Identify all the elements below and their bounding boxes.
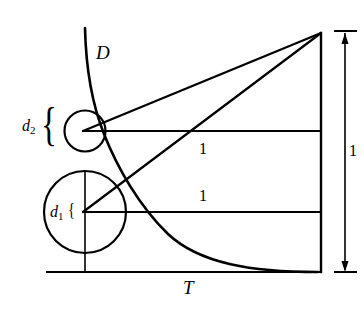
diagonal-apex-to-small-center xyxy=(83,33,321,131)
brace-d1: { xyxy=(68,200,75,219)
baseline-label-T: T xyxy=(183,277,194,299)
diagonal-apex-to-large-center xyxy=(83,33,321,212)
brace-d2: { xyxy=(41,102,57,148)
label-d2-base: d xyxy=(22,117,30,134)
curve-label-D: D xyxy=(96,42,110,64)
label-d1: d1 xyxy=(50,203,63,222)
label-d1-subscript: 1 xyxy=(58,210,63,222)
label-d2-subscript: 2 xyxy=(30,124,35,136)
dimension-arrow-bottom xyxy=(342,261,349,272)
geometry-figure: D T d2 { d1 { 1 1 1 xyxy=(0,0,364,309)
dimension-arrow-top xyxy=(342,33,349,44)
label-unit-upper: 1 xyxy=(199,140,207,158)
label-unit-right-dimension: 1 xyxy=(349,142,357,160)
label-unit-lower: 1 xyxy=(199,187,207,205)
figure-canvas xyxy=(0,0,364,309)
label-d2: d2 xyxy=(22,117,35,136)
label-d1-base: d xyxy=(50,203,58,220)
